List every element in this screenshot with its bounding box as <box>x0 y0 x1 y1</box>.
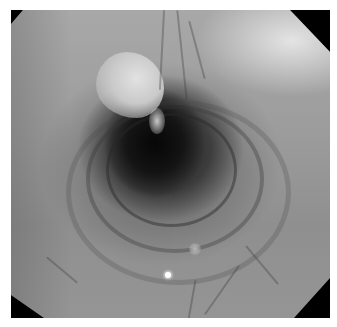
specular-reflection <box>165 272 171 278</box>
blood-vessel <box>176 10 187 100</box>
endoscopic-image <box>11 10 330 318</box>
small-nodule <box>189 243 201 255</box>
endoscope-frame <box>11 10 330 318</box>
blood-vessel <box>188 21 205 79</box>
inner-circular-fold <box>106 113 237 227</box>
fold-tip <box>149 108 165 134</box>
blood-vessel <box>188 280 197 320</box>
